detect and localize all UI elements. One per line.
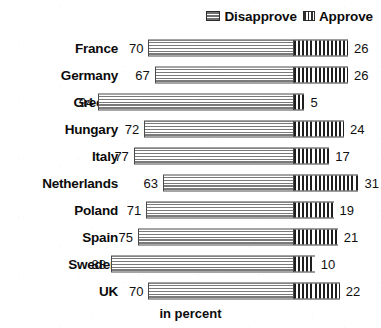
legend-item-approve: Approve (303, 9, 373, 24)
value-approve: 31 (364, 175, 378, 190)
chart-row: Netherlands6331 (0, 169, 381, 196)
bar-disapprove (144, 120, 294, 137)
bar-approve (294, 282, 340, 299)
bar-disapprove (163, 174, 294, 191)
country-label: Germany (0, 67, 118, 82)
chart-row: France7026 (0, 34, 381, 61)
bar-approve (294, 174, 358, 191)
chart-row: Sweden8810 (0, 250, 381, 277)
country-label: Netherlands (0, 175, 118, 190)
value-approve: 19 (340, 202, 354, 217)
bar-approve (294, 66, 348, 83)
value-approve: 5 (310, 94, 317, 109)
chart-row: Italy7717 (0, 142, 381, 169)
chart-row: Poland7119 (0, 196, 381, 223)
bar-disapprove (148, 282, 294, 299)
bar-disapprove (138, 228, 294, 245)
bar-disapprove (148, 39, 294, 56)
bar-approve (294, 93, 304, 110)
value-disapprove: 72 (125, 121, 139, 136)
bar-approve (294, 120, 344, 137)
vertical-stripes-icon (303, 11, 315, 21)
bar-approve (294, 228, 338, 245)
bar-disapprove (111, 255, 294, 272)
country-label: Spain (0, 229, 118, 244)
chart-row: Germany6726 (0, 61, 381, 88)
bar-approve (294, 39, 348, 56)
bar-disapprove (155, 66, 294, 83)
bar-disapprove (98, 93, 294, 110)
value-disapprove: 75 (119, 229, 133, 244)
bar-chart: Disapprove Approve France7026Germany6726… (0, 0, 381, 328)
chart-legend: Disapprove Approve (206, 8, 373, 24)
value-disapprove: 94 (79, 94, 93, 109)
country-label: France (0, 40, 118, 55)
bar-disapprove (146, 201, 294, 218)
axis-caption: in percent (0, 306, 381, 321)
value-approve: 17 (335, 148, 349, 163)
value-approve: 10 (321, 256, 335, 271)
legend-label-disapprove: Disapprove (224, 9, 297, 24)
value-disapprove: 70 (129, 40, 143, 55)
bar-approve (294, 255, 315, 272)
value-approve: 21 (344, 229, 358, 244)
value-disapprove: 70 (129, 283, 143, 298)
country-label: UK (0, 283, 118, 298)
chart-row: UK7022 (0, 277, 381, 304)
horizontal-stripes-icon (206, 11, 220, 21)
value-disapprove: 88 (92, 256, 106, 271)
chart-rows: France7026Germany6726Greece945Hungary722… (0, 34, 381, 304)
value-approve: 26 (354, 40, 368, 55)
value-disapprove: 67 (135, 67, 149, 82)
bar-approve (294, 147, 329, 164)
value-disapprove: 71 (127, 202, 141, 217)
country-label: Poland (0, 202, 118, 217)
value-approve: 22 (346, 283, 360, 298)
country-label: Hungary (0, 121, 118, 136)
bar-approve (294, 201, 334, 218)
value-approve: 24 (350, 121, 364, 136)
country-label: Italy (0, 148, 118, 163)
bar-disapprove (134, 147, 294, 164)
legend-item-disapprove: Disapprove (206, 9, 297, 24)
value-disapprove: 77 (114, 148, 128, 163)
value-approve: 26 (354, 67, 368, 82)
chart-row: Hungary7224 (0, 115, 381, 142)
value-disapprove: 63 (144, 175, 158, 190)
chart-row: Greece945 (0, 88, 381, 115)
chart-row: Spain7521 (0, 223, 381, 250)
legend-label-approve: Approve (319, 9, 373, 24)
